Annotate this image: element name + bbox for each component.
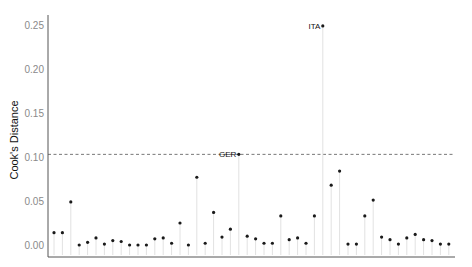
cooks-distance-chart: 0.000.050.100.150.200.25 Cook's Distance… <box>0 0 472 267</box>
data-point <box>271 242 274 245</box>
data-point <box>380 235 383 238</box>
data-point <box>229 228 232 231</box>
data-point <box>372 199 375 202</box>
data-point <box>162 236 165 239</box>
data-point <box>414 233 417 236</box>
data-point <box>296 236 299 239</box>
data-point <box>69 200 72 203</box>
point-labels: ITAGER <box>219 22 321 159</box>
data-point <box>439 243 442 246</box>
data-point <box>78 243 81 246</box>
data-point <box>246 235 249 238</box>
data-point <box>136 243 139 246</box>
data-point <box>220 235 223 238</box>
data-point <box>405 236 408 239</box>
data-point <box>262 242 265 245</box>
data-point <box>187 243 190 246</box>
data-points <box>52 24 450 246</box>
data-point <box>321 24 324 27</box>
data-point <box>397 243 400 246</box>
data-point <box>304 242 307 245</box>
data-point <box>111 239 114 242</box>
data-point <box>355 243 358 246</box>
data-point <box>120 240 123 243</box>
data-point <box>313 214 316 217</box>
y-axis-title: Cook's Distance <box>8 100 20 179</box>
data-point <box>288 238 291 241</box>
y-axis: 0.000.050.100.150.200.25 <box>25 20 45 251</box>
y-tick-label: 0.05 <box>25 196 45 207</box>
data-point <box>61 231 64 234</box>
data-point <box>237 153 240 156</box>
data-point <box>153 237 156 240</box>
data-point <box>254 237 257 240</box>
data-point <box>447 243 450 246</box>
data-point <box>204 242 207 245</box>
data-point <box>178 221 181 224</box>
point-label-ita: ITA <box>308 22 321 31</box>
data-point <box>103 243 106 246</box>
data-point <box>86 241 89 244</box>
data-point <box>94 236 97 239</box>
data-point <box>430 239 433 242</box>
point-label-ger: GER <box>219 150 237 159</box>
data-point <box>170 242 173 245</box>
y-tick-label: 0.10 <box>25 152 45 163</box>
data-point <box>346 243 349 246</box>
y-tick-label: 0.20 <box>25 64 45 75</box>
data-point <box>279 214 282 217</box>
data-point <box>422 238 425 241</box>
data-point <box>52 231 55 234</box>
data-point <box>330 184 333 187</box>
data-point <box>195 176 198 179</box>
y-tick-label: 0.15 <box>25 108 45 119</box>
y-tick-label: 0.25 <box>25 20 45 31</box>
data-point <box>128 243 131 246</box>
data-point <box>145 243 148 246</box>
y-tick-label: 0.00 <box>25 240 45 251</box>
data-point <box>212 211 215 214</box>
data-point <box>363 214 366 217</box>
data-point <box>338 169 341 172</box>
data-point <box>388 238 391 241</box>
stems <box>54 26 449 255</box>
